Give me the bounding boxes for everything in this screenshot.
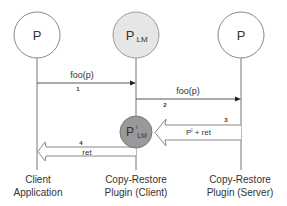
message-4: 4 ret — [38, 140, 136, 161]
message-step: 2 — [163, 102, 167, 108]
message-label: Pl + ret — [186, 127, 212, 137]
participant-plugin-client-node: P LM — [113, 12, 159, 58]
message-label: foo(p) — [70, 70, 94, 80]
sequence-diagram: P P LM P foo(p) 1 foo(p) 2 3 Pl + ret 4 … — [0, 0, 287, 206]
participant-label-plugin-server: Copy-Restore Plugin (Server) — [207, 174, 274, 198]
message-step: 4 — [79, 140, 83, 146]
message-label: ret — [82, 148, 92, 157]
node-symbol: P — [237, 28, 246, 43]
node-symbol: P — [33, 28, 42, 43]
node-symbol: P — [126, 28, 135, 43]
message-3: 3 Pl + ret — [155, 117, 241, 146]
svg-text:Copy-Restore: Copy-Restore — [209, 174, 271, 185]
inner-node-plm-prime: P l LM — [120, 116, 152, 148]
node-subscript: LM — [136, 35, 147, 44]
svg-text:Copy-Restore: Copy-Restore — [105, 174, 167, 185]
message-2: foo(p) 2 — [136, 86, 241, 108]
svg-text:Plugin (Server): Plugin (Server) — [207, 187, 274, 198]
participant-label-client: Client Application — [14, 174, 63, 198]
message-step: 3 — [224, 117, 228, 123]
svg-text:Plugin (Client): Plugin (Client) — [105, 187, 168, 198]
participant-client-node: P — [14, 12, 60, 58]
message-1: foo(p) 1 — [37, 70, 136, 92]
node-subscript: LM — [137, 132, 147, 139]
message-label: foo(p) — [176, 86, 200, 96]
svg-text:Application: Application — [14, 187, 63, 198]
message-step: 1 — [76, 86, 80, 92]
node-superscript: l — [136, 124, 137, 130]
node-symbol: P — [126, 125, 134, 139]
svg-text:Client: Client — [25, 174, 51, 185]
participant-label-plugin-client: Copy-Restore Plugin (Client) — [105, 174, 168, 198]
participant-plugin-server-node: P — [218, 12, 264, 58]
